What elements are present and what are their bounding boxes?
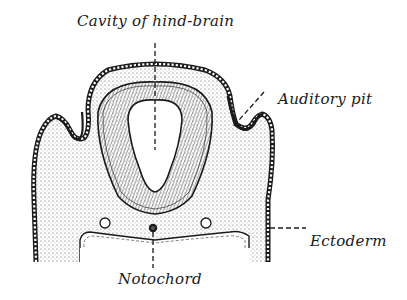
right-vessel	[201, 218, 211, 228]
label-auditory-pit: Auditory pit	[278, 92, 372, 107]
left-vessel	[100, 218, 110, 228]
diagram-stage: Cavity of hind-brain Auditory pit Ectode…	[0, 0, 407, 300]
label-notochord: Notochord	[118, 272, 202, 287]
label-ectoderm: Ectoderm	[310, 234, 387, 249]
cross-section-drawing	[0, 0, 407, 300]
label-cavity-of-hind-brain: Cavity of hind-brain	[77, 14, 234, 29]
